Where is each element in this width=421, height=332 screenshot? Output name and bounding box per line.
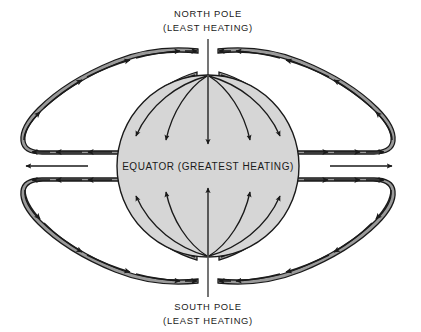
heat-circulation-diagram: NORTH POLE (LEAST HEATING) EQUATOR (GREA… — [0, 0, 421, 332]
diagram-canvas: NORTH POLE (LEAST HEATING) EQUATOR (GREA… — [0, 0, 421, 332]
equator-label: EQUATOR (GREATEST HEATING) — [122, 161, 294, 172]
north-pole-label-line2: (LEAST HEATING) — [163, 22, 253, 33]
ul-outer-arrow-2 — [44, 80, 82, 108]
north-pole-label-line1: NORTH POLE — [174, 8, 242, 19]
south-pole-label-line1: SOUTH POLE — [174, 301, 241, 312]
south-pole-label-line2: (LEAST HEATING) — [163, 315, 253, 326]
ur-outer-arrow-2 — [334, 80, 372, 108]
